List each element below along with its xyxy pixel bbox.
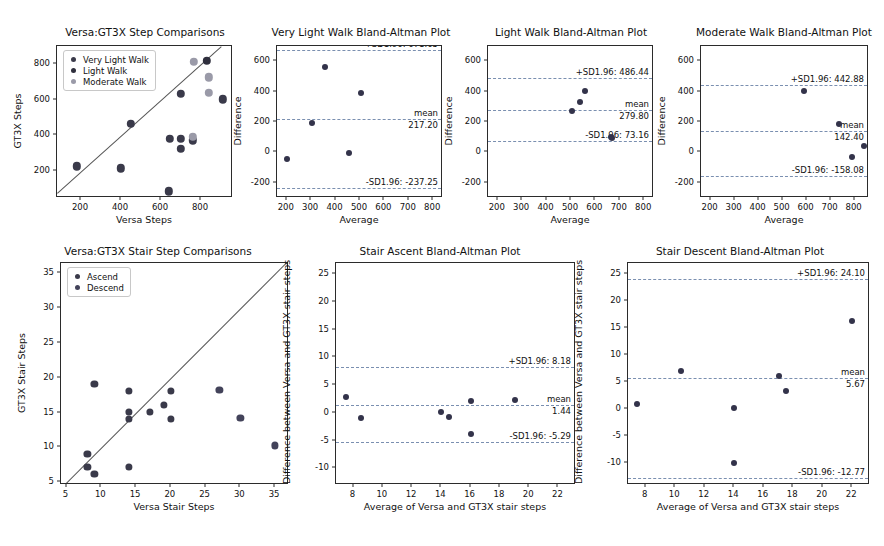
x-tick-label: 700 (400, 202, 416, 212)
y-tick-label: -10 (585, 457, 621, 467)
data-point (117, 164, 125, 172)
upper-line (488, 78, 652, 79)
x-tick-label: 500 (562, 202, 578, 212)
legend-entry: Light Walk (68, 65, 149, 76)
mean-value-label: 279.80 (619, 111, 649, 121)
x-tick-label: 800 (635, 202, 651, 212)
data-point (343, 394, 349, 400)
y-tick-label: 20 (293, 296, 329, 306)
x-tick-mark (407, 197, 408, 200)
x-tick-mark (733, 197, 734, 200)
data-point (836, 121, 842, 127)
y-tick-mark (273, 181, 276, 182)
x-tick-mark (762, 484, 763, 487)
x-tick-label: 300 (302, 202, 318, 212)
x-axis-label-very-light-walk-bland-altman: Average (276, 214, 442, 225)
y-tick-mark (697, 181, 700, 182)
x-tick-label: 800 (845, 202, 861, 212)
data-point (678, 368, 684, 374)
mean-label: mean (840, 120, 864, 130)
x-tick-mark (496, 197, 497, 200)
data-point (167, 387, 174, 394)
x-tick-mark (498, 484, 499, 487)
x-tick-label: 20 (164, 489, 175, 499)
y-tick-label: -10 (293, 462, 329, 472)
x-tick-mark (851, 484, 852, 487)
data-point (203, 56, 211, 64)
x-tick-mark (200, 197, 201, 200)
y-tick-mark (53, 134, 56, 135)
y-tick-mark (57, 307, 60, 308)
y-tick-mark (484, 121, 487, 122)
x-tick-label: 15 (130, 489, 141, 499)
mean-line (628, 378, 868, 379)
x-axis-label-stair-descent-bland-altman: Average of Versa and GT3X stair steps (627, 501, 869, 512)
x-tick-mark (709, 197, 710, 200)
panel-title-stair-ascent-bland-altman: Stair Ascent Bland-Altman Plot (300, 245, 580, 257)
y-tick-mark (332, 384, 335, 385)
x-tick-mark (643, 197, 644, 200)
x-tick-label: 500 (351, 202, 367, 212)
legend-label: Descend (87, 283, 124, 293)
mean-line (336, 405, 574, 406)
panel-title-moderate-walk-bland-altman: Moderate Walk Bland-Altman Plot (660, 26, 884, 38)
legend-marker-icon (75, 274, 80, 279)
x-tick-label: 20 (816, 489, 827, 499)
x-tick-mark (821, 484, 822, 487)
lower-limit-label: -SD1.96: 73.16 (585, 130, 649, 140)
x-tick-label: 200 (701, 202, 717, 212)
y-axis-label-versa-gt3x-stair-step-comparisons: GT3X Stair Steps (16, 262, 27, 484)
x-tick-mark (411, 484, 412, 487)
y-tick-mark (273, 151, 276, 152)
x-tick-label: 10 (95, 489, 106, 499)
x-tick-mark (440, 484, 441, 487)
x-tick-label: 12 (698, 489, 709, 499)
x-tick-label: 600 (797, 202, 813, 212)
mean-label: mean (414, 108, 438, 118)
data-point (783, 388, 789, 394)
data-point (126, 387, 133, 394)
x-tick-label: 400 (749, 202, 765, 212)
data-point (849, 154, 855, 160)
y-tick-label: 10 (585, 349, 621, 359)
x-axis-label-versa-gt3x-step-comparisons: Versa Steps (56, 214, 232, 225)
x-tick-mark (674, 484, 675, 487)
data-point (126, 463, 133, 470)
y-tick-mark (57, 376, 60, 377)
panel-title-stair-descent-bland-altman: Stair Descent Bland-Altman Plot (590, 245, 884, 257)
y-tick-label: -5 (585, 430, 621, 440)
data-point (84, 450, 91, 457)
lower-limit-label: -SD1.96: -12.77 (798, 467, 865, 477)
lower-limit-label: -SD1.96: -5.29 (510, 431, 572, 441)
mean-value-label: 5.67 (846, 379, 865, 389)
x-tick-mark (120, 197, 121, 200)
y-tick-mark (332, 356, 335, 357)
upper-line (701, 85, 867, 86)
data-point (358, 90, 364, 96)
y-tick-mark (332, 411, 335, 412)
x-tick-mark (792, 484, 793, 487)
data-point (446, 414, 452, 420)
data-point (577, 99, 583, 105)
x-tick-mark (570, 197, 571, 200)
y-axis-label-moderate-walk-bland-altman: Difference (656, 45, 667, 197)
y-tick-mark (624, 462, 627, 463)
y-tick-mark (697, 151, 700, 152)
y-tick-mark (273, 121, 276, 122)
data-point (861, 143, 867, 149)
x-tick-mark (805, 197, 806, 200)
upper-limit-label: +SD1.96: 8.18 (509, 356, 571, 366)
y-tick-mark (484, 181, 487, 182)
data-point (801, 88, 807, 94)
x-tick-label: 700 (611, 202, 627, 212)
plot-area-moderate-walk-bland-altman: +SD1.96: 442.88-SD1.96: -158.08mean142.4… (700, 45, 868, 197)
y-axis-label-very-light-walk-bland-altman: Difference (232, 45, 243, 197)
data-point (204, 89, 212, 97)
x-tick-label: 400 (112, 202, 128, 212)
data-point (512, 397, 518, 403)
y-tick-label: 10 (293, 351, 329, 361)
lower-limit-label: -SD1.96: -158.08 (792, 165, 864, 175)
x-tick-mark (359, 197, 360, 200)
legend-marker-icon (71, 79, 76, 84)
plot-area-very-light-walk-bland-altman: +SD1.96: 671.65-SD1.96: -237.25mean217.2… (276, 45, 442, 197)
